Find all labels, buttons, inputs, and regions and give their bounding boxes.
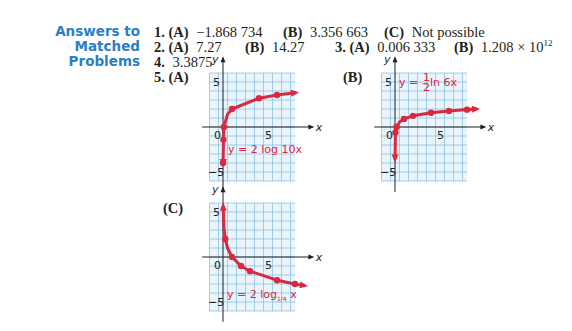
problem-number: 4. [154, 54, 165, 70]
x-axis-label: x [315, 251, 323, 264]
curve-end-arrow-icon [472, 106, 480, 113]
equation-label: y = [399, 76, 418, 89]
problem-number: 5. [154, 69, 165, 85]
equation-label: y = 2 log 10x [228, 143, 302, 156]
equation-label: y = 2 log1/4 x [227, 288, 297, 302]
data-point [274, 92, 280, 98]
heading-line-1: Answers to [0, 24, 140, 39]
y-tick-neg5: −5 [380, 166, 396, 179]
graph-c-label: (C) [163, 200, 183, 217]
part-label: (A) [350, 39, 370, 55]
x-axis-arrow-icon [308, 255, 314, 260]
answer-value: 14.27 [272, 39, 305, 55]
part-label: (B) [245, 39, 264, 55]
answer-3b: (B) 1.208 × 1012 [454, 39, 553, 56]
x-axis-arrow-icon [480, 125, 486, 130]
y-tick-5: 5 [385, 76, 392, 89]
data-point [393, 124, 399, 130]
chart-a: xy055−5y = 2 log 10x [190, 68, 310, 198]
y-axis-arrow-icon [221, 56, 226, 62]
part-label: (B) [454, 39, 473, 55]
y-tick-neg5: −5 [208, 296, 224, 309]
data-point [221, 124, 227, 130]
data-point [292, 281, 298, 287]
fraction-denominator: 2 [423, 81, 430, 94]
part-label: (A) [169, 39, 189, 55]
y-tick-5: 5 [213, 76, 220, 89]
data-point [274, 277, 280, 283]
x-axis-arrow-icon [308, 125, 314, 130]
x-axis-label: x [315, 121, 323, 134]
part-label: (A) [169, 24, 189, 40]
graph-b-label: (B) [343, 69, 362, 86]
data-point [247, 268, 253, 274]
part-label: (B) [283, 24, 302, 40]
problem-number: 2. [154, 39, 165, 55]
data-point [401, 116, 407, 122]
y-axis-label: y [383, 53, 391, 66]
data-point [220, 136, 226, 142]
data-point [222, 236, 228, 242]
equation-rest: ln 6x [430, 76, 458, 89]
y-axis-label: y [211, 183, 219, 196]
answer-value: 3.356 663 [310, 24, 368, 40]
x-tick-0: 0 [386, 129, 393, 142]
exponent: 12 [544, 38, 553, 48]
data-point [392, 129, 398, 135]
data-point [229, 254, 235, 260]
y-tick-neg5: −5 [208, 166, 224, 179]
y-axis-label: y [211, 53, 219, 66]
data-point [428, 109, 434, 115]
answer-value: −1.868 734 [196, 24, 262, 40]
y-tick-5: 5 [213, 206, 220, 219]
heading-line-2: Matched Problems [0, 39, 140, 69]
answer-2b: (B) 14.27 [245, 39, 305, 56]
x-axis-label: x [487, 121, 495, 134]
problem-number: 3. [335, 39, 346, 55]
x-tick-5: 5 [265, 129, 272, 142]
data-point [238, 263, 244, 269]
part-label: (C) [384, 24, 404, 40]
answer-value: 1.208 × 10 [481, 39, 544, 55]
curve-end-arrow-icon [299, 281, 307, 288]
data-point [220, 160, 226, 166]
data-point [446, 108, 452, 114]
answer-value: Not possible [412, 24, 485, 40]
x-tick-5: 5 [437, 129, 444, 142]
answer-5: 5. (A) [154, 69, 189, 86]
problem-number: 1. [154, 24, 165, 40]
data-point [229, 106, 235, 112]
x-tick-5: 5 [265, 259, 272, 272]
part-label: (A) [169, 69, 189, 85]
chart-c: xy055−5y = 2 log1/4 x [190, 198, 310, 328]
data-point [464, 106, 470, 112]
x-tick-0: 0 [214, 129, 221, 142]
y-axis-arrow-icon [393, 56, 398, 62]
x-tick-0: 0 [214, 259, 221, 272]
data-point [410, 113, 416, 119]
data-point [256, 95, 262, 101]
chart-b: xy055−5y = 12 ln 6x [362, 68, 482, 198]
section-heading: Answers to Matched Problems [0, 24, 140, 69]
